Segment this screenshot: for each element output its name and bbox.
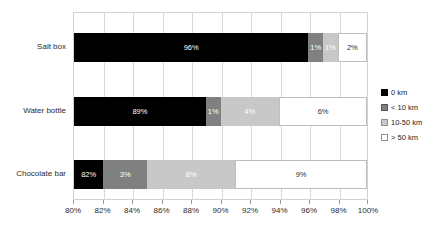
- bar-row: 96%1%1%2%: [74, 33, 367, 62]
- x-axis-tick: [191, 200, 192, 204]
- bar-segment: 4%: [221, 97, 280, 126]
- x-axis-tick-label: 92%: [242, 206, 258, 215]
- x-axis-tick: [367, 200, 368, 204]
- x-axis-tick-label: 82%: [94, 206, 110, 215]
- x-axis-tick: [103, 200, 104, 204]
- bar-segment: 89%: [74, 97, 206, 126]
- bar-row: 82%3%6%9%: [74, 160, 367, 189]
- x-axis-tick: [73, 200, 74, 204]
- legend-item[interactable]: < 10 km: [381, 101, 443, 114]
- legend-label: 10-50 km: [391, 118, 422, 127]
- bar-segment: 1%: [308, 33, 323, 62]
- plot-area: 96%1%1%2%89%1%4%6%82%3%6%9%: [73, 12, 368, 200]
- legend-swatch-icon: [381, 104, 388, 111]
- x-axis-tick-label: 88%: [183, 206, 199, 215]
- stacked-bar-chart: 96%1%1%2%89%1%4%6%82%3%6%9% Salt boxWate…: [0, 0, 444, 230]
- x-axis-tick-labels: 80%82%84%86%88%90%92%94%96%98%100%: [73, 206, 368, 220]
- bar-segment: 2%: [338, 33, 367, 62]
- legend-swatch-icon: [381, 119, 388, 126]
- bar-segment: 9%: [235, 160, 367, 189]
- legend-label: 0 km: [391, 88, 407, 97]
- x-axis-tick: [132, 200, 133, 204]
- bar-segment: 96%: [74, 33, 308, 62]
- x-axis-tick-label: 98%: [330, 206, 346, 215]
- category-label: Chocolate bar: [0, 159, 66, 188]
- legend-swatch-icon: [381, 134, 388, 141]
- x-axis-tick-label: 94%: [271, 206, 287, 215]
- category-label: Water bottle: [0, 96, 66, 125]
- x-axis-tick-label: 96%: [301, 206, 317, 215]
- bar-row: 89%1%4%6%: [74, 97, 367, 126]
- x-axis-tick-label: 90%: [212, 206, 228, 215]
- legend-swatch-icon: [381, 89, 388, 96]
- category-label: Salt box: [0, 32, 66, 61]
- x-axis-tick: [221, 200, 222, 204]
- x-axis-tick: [162, 200, 163, 204]
- legend-item[interactable]: > 50 km: [381, 131, 443, 144]
- x-axis-tick: [250, 200, 251, 204]
- bar-segment: 1%: [206, 97, 221, 126]
- legend-item[interactable]: 10-50 km: [381, 116, 443, 129]
- x-axis-tick-label: 80%: [65, 206, 81, 215]
- bar-segment: 3%: [103, 160, 147, 189]
- x-axis-tick: [339, 200, 340, 204]
- x-axis-tick: [280, 200, 281, 204]
- bar-segment: 6%: [279, 97, 367, 126]
- x-axis-tick-label: 100%: [358, 206, 378, 215]
- legend-label: > 50 km: [391, 133, 418, 142]
- x-axis-tick-label: 86%: [153, 206, 169, 215]
- x-axis-tick-label: 84%: [124, 206, 140, 215]
- bar-segment: 82%: [74, 160, 103, 189]
- bar-segment: 6%: [147, 160, 235, 189]
- legend-label: < 10 km: [391, 103, 418, 112]
- chart-legend: 0 km< 10 km10-50 km> 50 km: [381, 86, 443, 146]
- bar-segment: 1%: [323, 33, 338, 62]
- legend-item[interactable]: 0 km: [381, 86, 443, 99]
- x-axis-tick: [309, 200, 310, 204]
